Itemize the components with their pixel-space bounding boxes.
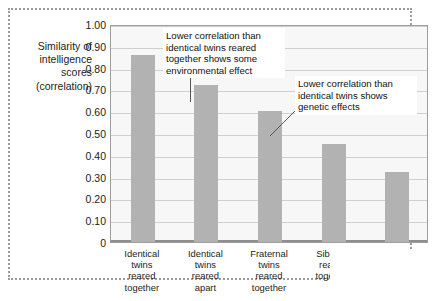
x-axis-label-line: reared	[237, 270, 301, 281]
x-axis-label-line: twins	[237, 259, 301, 270]
y-axis-tick-label: 0.90	[66, 41, 106, 53]
y-axis-tick-labels: 1.000.900.800.700.600.500.400.300.200.10…	[62, 25, 106, 243]
x-axis-label-line: together	[237, 282, 301, 293]
chart-figure: Similarity of intelligence scores (corre…	[0, 0, 438, 301]
y-axis-tick-label: 0.20	[66, 193, 106, 205]
x-axis-category-label: Identicaltwinsrearedapart	[173, 248, 237, 293]
annotation-callout-2: Lower correlation than identical twins s…	[295, 76, 417, 115]
x-axis-label-line: Fraternal	[237, 248, 301, 259]
annotation-1-line-3: together shows some	[166, 53, 282, 65]
annotation-callout-1: Lower correlation than identical twins r…	[163, 28, 285, 78]
frame-corner-mask	[330, 250, 438, 301]
y-axis-tick-label: 0.30	[66, 172, 106, 184]
y-axis-tick-label: 0.40	[66, 150, 106, 162]
gridline	[111, 26, 427, 27]
bar	[131, 55, 155, 242]
y-axis-tick-label: 0.50	[66, 128, 106, 140]
x-axis-label-line: twins	[110, 259, 174, 270]
annotation-2-line-2: identical twins shows	[298, 90, 414, 102]
bar	[385, 172, 409, 242]
x-axis-label-line: twins	[173, 259, 237, 270]
x-axis-label-line: reared	[110, 270, 174, 281]
x-axis-label-line: together	[110, 282, 174, 293]
y-axis-tick-label: 0.10	[66, 215, 106, 227]
bar	[194, 85, 218, 242]
y-axis-tick-label: 1.00	[66, 19, 106, 31]
annotation-1-line-2: identical twins reared	[166, 42, 282, 54]
y-axis-tick-label: 0.80	[66, 63, 106, 75]
x-axis-label-line: Identical	[110, 248, 174, 259]
x-axis-label-line: Identical	[173, 248, 237, 259]
y-axis-tick-label: 0	[66, 237, 106, 249]
y-axis-tick-label: 0.70	[66, 84, 106, 96]
y-axis-tick-label: 0.60	[66, 106, 106, 118]
x-axis-label-line: apart	[173, 282, 237, 293]
annotation-2-line-3: genetic effects	[298, 101, 414, 113]
x-axis-category-label: Fraternaltwinsrearedtogether	[237, 248, 301, 293]
x-axis-category-label: Identicaltwinsrearedtogether	[110, 248, 174, 293]
bar	[322, 144, 346, 242]
annotation-1-line-1: Lower correlation than	[166, 30, 282, 42]
annotation-2-line-1: Lower correlation than	[298, 78, 414, 90]
x-axis-label-line: reared	[173, 270, 237, 281]
annotation-1-line-4: environmental effect	[166, 65, 282, 77]
